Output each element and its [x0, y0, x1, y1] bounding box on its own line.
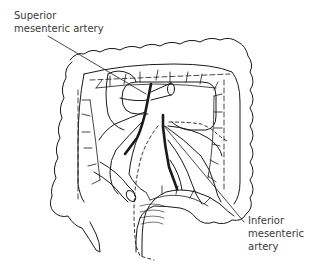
dashed-boundary	[134, 122, 229, 260]
ileum-segment	[94, 162, 138, 203]
label-line: Inferior	[248, 214, 304, 227]
label-line: artery	[248, 240, 304, 253]
label-line: mesenteric artery	[14, 22, 104, 35]
label-line: mesenteric	[248, 227, 304, 240]
colon-outline	[50, 38, 253, 256]
marginal-arcades	[82, 70, 222, 206]
diagram-canvas: Superior mesenteric artery Inferior mese…	[0, 0, 309, 267]
label-superior-mesenteric-artery: Superior mesenteric artery	[14, 9, 104, 35]
label-line: Superior	[14, 9, 104, 22]
label-inferior-mesenteric-artery: Inferior mesenteric artery	[248, 214, 304, 253]
leader-lines	[48, 36, 244, 222]
